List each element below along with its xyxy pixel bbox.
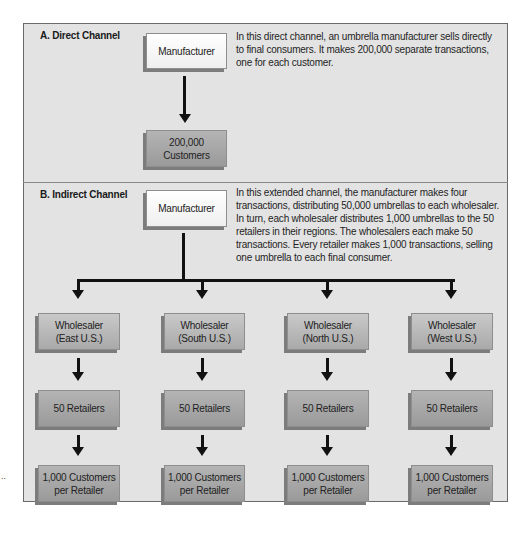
down-arrow-icon [72, 447, 84, 456]
direct-manufacturer-label: Manufacturer [158, 45, 215, 58]
down-arrow-icon [196, 290, 208, 299]
margin-mark: .. [1, 471, 6, 481]
retailers-label: 50 Retailers [179, 402, 230, 415]
down-arrow-icon [321, 447, 333, 456]
customers-box: 1,000 Customers per Retailer [38, 465, 120, 502]
branch-line [77, 279, 455, 282]
arrow-line [77, 358, 80, 372]
trunk-line [182, 233, 185, 281]
wholesaler-label: Wholesaler (West U.S.) [427, 319, 476, 345]
direct-customers-box: 200,000 Customers [146, 130, 227, 167]
down-arrow-icon [321, 290, 333, 299]
indirect-manufacturer-box: Manufacturer [146, 190, 227, 227]
direct-description: In this direct channel, an umbrella manu… [236, 30, 496, 69]
retailers-label: 50 Retailers [427, 402, 478, 415]
direct-manufacturer-box: Manufacturer [146, 33, 227, 69]
customers-box: 1,000 Customers per Retailer [164, 465, 245, 502]
wholesaler-box: Wholesaler (North U.S.) [287, 313, 369, 350]
down-arrow-icon [179, 114, 191, 123]
down-arrow-icon [196, 372, 208, 381]
arrow-line [326, 358, 329, 372]
wholesaler-label: Wholesaler (South U.S.) [178, 319, 231, 345]
retailers-box: 50 Retailers [411, 390, 493, 427]
arrow-line [450, 358, 453, 372]
customers-label: 1,000 Customers per Retailer [291, 471, 364, 497]
down-arrow-icon [445, 290, 457, 299]
customers-box: 1,000 Customers per Retailer [287, 465, 369, 502]
retailers-box: 50 Retailers [38, 390, 120, 427]
arrow-line [201, 358, 204, 372]
direct-arrow-line [183, 76, 186, 114]
indirect-description: In this extended channel, the manufactur… [236, 186, 506, 264]
direct-customers-label: 200,000 Customers [163, 136, 210, 162]
wholesaler-label: Wholesaler (East U.S.) [55, 319, 103, 345]
retailers-label: 50 Retailers [54, 402, 105, 415]
direct-channel-title: A. Direct Channel [40, 30, 120, 41]
retailers-box: 50 Retailers [287, 390, 369, 427]
customers-label: 1,000 Customers per Retailer [415, 471, 488, 497]
section-divider [23, 182, 508, 183]
down-arrow-icon [72, 372, 84, 381]
down-arrow-icon [72, 290, 84, 299]
retailers-box: 50 Retailers [164, 390, 245, 427]
down-arrow-icon [445, 372, 457, 381]
down-arrow-icon [196, 447, 208, 456]
down-arrow-icon [445, 447, 457, 456]
wholesaler-box: Wholesaler (South U.S.) [164, 313, 245, 350]
customers-label: 1,000 Customers per Retailer [42, 471, 115, 497]
customers-box: 1,000 Customers per Retailer [411, 465, 493, 502]
wholesaler-label: Wholesaler (North U.S.) [303, 319, 354, 345]
wholesaler-box: Wholesaler (West U.S.) [411, 313, 493, 350]
indirect-manufacturer-label: Manufacturer [158, 202, 215, 215]
customers-label: 1,000 Customers per Retailer [168, 471, 241, 497]
retailers-label: 50 Retailers [303, 402, 354, 415]
wholesaler-box: Wholesaler (East U.S.) [38, 313, 120, 350]
indirect-channel-title: B. Indirect Channel [40, 189, 127, 200]
down-arrow-icon [321, 372, 333, 381]
